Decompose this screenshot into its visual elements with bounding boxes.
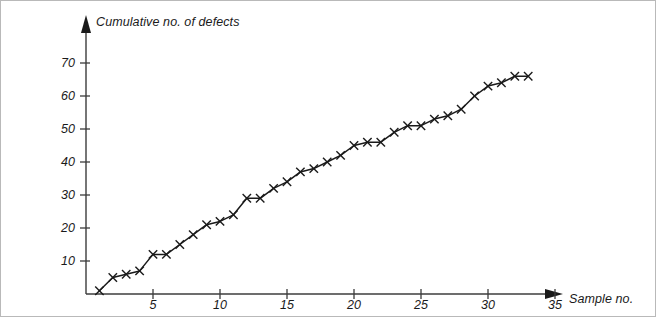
- data-point-marker: [229, 211, 237, 219]
- axes: [81, 15, 563, 299]
- x-tick-label-10: 10: [208, 298, 232, 312]
- x-tick-label-30: 30: [476, 298, 500, 312]
- data-point-marker: [269, 184, 277, 192]
- chart-canvas: [1, 1, 656, 317]
- data-point-markers: [95, 72, 532, 295]
- data-point-marker: [336, 151, 344, 159]
- data-point-marker: [323, 158, 331, 166]
- x-tick-label-35: 35: [543, 298, 567, 312]
- x-tick-label-25: 25: [409, 298, 433, 312]
- y-tick-label-30: 30: [49, 188, 75, 202]
- x-tick-label-15: 15: [275, 298, 299, 312]
- y-tick-label-40: 40: [49, 155, 75, 169]
- data-point-marker: [390, 128, 398, 136]
- y-tick-label-60: 60: [49, 89, 75, 103]
- y-tick-label-70: 70: [49, 56, 75, 70]
- figure-frame: Cumulative no. of defects Sample no. 70 …: [0, 0, 656, 317]
- y-axis-arrowhead: [81, 15, 91, 33]
- y-tick-label-50: 50: [49, 122, 75, 136]
- data-point-marker: [457, 105, 465, 113]
- data-point-marker: [283, 178, 291, 186]
- x-tick-label-5: 5: [141, 298, 165, 312]
- y-tick-label-20: 20: [49, 221, 75, 235]
- data-point-marker: [189, 230, 197, 238]
- y-axis-ticks: [80, 63, 90, 261]
- data-series-line: [99, 76, 528, 291]
- data-point-marker: [176, 240, 184, 248]
- x-tick-label-20: 20: [342, 298, 366, 312]
- y-axis-label: Cumulative no. of defects: [96, 15, 240, 29]
- data-point-marker: [470, 92, 478, 100]
- x-axis-label: Sample no.: [569, 292, 633, 306]
- y-tick-label-10: 10: [49, 254, 75, 268]
